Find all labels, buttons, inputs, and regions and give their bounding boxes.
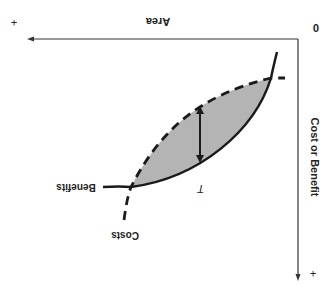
y-axis-arrow-icon xyxy=(296,274,301,281)
y-axis-plus: + xyxy=(310,268,316,280)
x-axis-label: Area xyxy=(145,16,170,28)
costs-label: Costs xyxy=(111,230,139,241)
x-axis-plus: + xyxy=(11,17,17,29)
cost-benefit-diagram: Area + 0 Cost or Benefit + Benefits Cost… xyxy=(0,0,335,287)
y-axis-label: Cost or Benefit xyxy=(309,118,321,197)
x-axis-arrow-icon xyxy=(27,37,34,42)
origin-label: 0 xyxy=(313,22,319,34)
benefits-label: Benefits xyxy=(56,182,96,193)
optimum-label: T xyxy=(196,183,204,195)
